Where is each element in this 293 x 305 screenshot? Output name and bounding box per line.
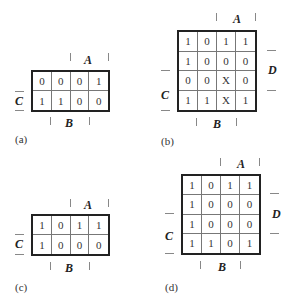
kmap-cell: 1 [183,234,202,253]
b-label-bracket-right [240,261,241,269]
b-label-bracket-left [50,117,51,125]
kmap-cell: X [217,71,236,91]
var-label-A: A [84,198,92,213]
a-label-bracket-left [216,13,217,21]
b-label-bracket-right [89,117,90,125]
kmap-cell: 0 [89,235,108,254]
caption-b: (b) [161,135,174,147]
a-label-bracket-right [108,53,109,61]
kmap-cell: 1 [183,215,202,234]
c-label-bracket-top [15,234,24,235]
b-label-bracket-left [50,262,51,270]
kmap-cell: 1 [183,195,202,214]
a-label-bracket-left [70,53,71,61]
kmap-grid: 1 0 1 1 1 0 0 0 0 0 X 0 1 1 X 1 [177,30,257,112]
c-label-bracket-bottom [15,254,24,255]
kmap-cell: X [217,91,236,111]
kmap-cell: 0 [71,91,90,110]
kmap-cell: 0 [217,52,236,72]
kmap-cell: 1 [183,176,202,195]
var-label-C: C [161,88,169,103]
kmap-cell: 0 [33,72,52,91]
kmap-cell: 0 [202,195,221,214]
b-label-bracket-left [200,261,201,269]
var-label-B: B [218,260,226,275]
kmap-cell: 0 [71,72,90,91]
c-label-bracket-top [165,213,174,214]
kmap-cell: 1 [33,216,52,235]
kmap-cell: 0 [52,216,71,235]
var-label-C: C [15,94,23,109]
var-label-B: B [65,261,73,276]
kmap-cell: 1 [179,52,198,72]
kmap-cell: 0 [240,195,259,214]
kmap-cell: 1 [240,176,259,195]
b-label-bracket-right [89,262,90,270]
kmap-cell: 0 [221,215,240,234]
kmap-cell: 1 [202,234,221,253]
c-label-bracket-bottom [15,110,24,111]
kmap-grid: 0 0 0 1 1 1 0 0 [31,70,110,112]
kmap-cell: 0 [236,52,255,72]
var-label-C: C [15,237,23,252]
a-label-bracket-right [259,158,260,166]
d-label-bracket-top [270,193,279,194]
kmap-grid: 1 0 1 1 1 0 0 0 [31,214,110,256]
var-label-A: A [233,12,241,27]
var-label-B: B [213,117,221,132]
b-label-bracket-right [236,118,237,126]
kmap-cell: 0 [240,215,259,234]
kmap-cell: 0 [52,235,71,254]
kmap-cell: 1 [179,32,198,52]
a-label-bracket-right [255,13,256,21]
d-label-bracket-top [267,50,276,51]
kmap-cell: 0 [236,71,255,91]
kmap-cell: 1 [52,91,71,110]
kmap-cell: 1 [71,216,90,235]
kmap-cell: 0 [198,52,217,72]
kmap-cell: 0 [221,195,240,214]
kmap-cell: 1 [221,176,240,195]
kmap-cell: 1 [217,32,236,52]
c-label-bracket-bottom [165,253,174,254]
var-label-B: B [65,116,73,131]
kmap-cell: 0 [202,176,221,195]
kmap-cell: 0 [198,71,217,91]
kmap-cell: 1 [89,216,108,235]
kmap-cell: 1 [236,91,255,111]
kmap-cell: 1 [179,91,198,111]
kmap-cell: 0 [221,234,240,253]
a-label-bracket-right [108,199,109,207]
b-label-bracket-left [196,118,197,126]
kmap-cell: 1 [33,235,52,254]
c-label-bracket-top [15,91,24,92]
kmap-cell: 1 [236,32,255,52]
c-label-bracket-top [161,70,170,71]
caption-c: (c) [15,281,27,293]
kmap-grid: 1 0 1 1 1 0 0 0 1 0 0 0 1 1 0 1 [181,174,261,255]
kmap-cell: 0 [202,215,221,234]
kmap-cell: 0 [71,235,90,254]
kmap-cell: 1 [240,234,259,253]
kmap-cell: 0 [52,72,71,91]
var-label-C: C [165,229,173,244]
a-label-bracket-left [220,158,221,166]
kmap-cell: 1 [33,91,52,110]
kmap-cell: 0 [179,71,198,91]
var-label-D: D [272,207,281,222]
kmap-cell: 0 [89,91,108,110]
var-label-A: A [84,53,92,68]
var-label-D: D [268,63,277,78]
var-label-A: A [237,157,245,172]
d-label-bracket-bottom [267,90,276,91]
caption-a: (a) [15,133,27,145]
d-label-bracket-bottom [270,233,279,234]
a-label-bracket-left [70,199,71,207]
c-label-bracket-bottom [161,110,170,111]
kmap-cell: 0 [198,32,217,52]
kmap-cell: 1 [198,91,217,111]
kmap-cell: 1 [89,72,108,91]
caption-d: (d) [165,281,178,293]
